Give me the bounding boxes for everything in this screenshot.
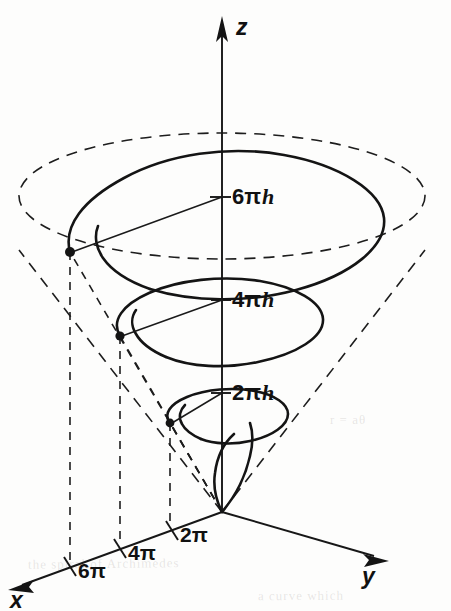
height-label-4pih: 4πh (232, 289, 274, 311)
height-label-2pih-main: 2π (232, 380, 261, 405)
height-label-2pih-italic: h (261, 380, 274, 405)
y-axis-line (222, 512, 374, 556)
height-label-6pih: 6πh (232, 186, 274, 208)
radial-label-2pi: 2π (180, 524, 208, 545)
conical-spiral-figure: the spiral of Archimedes a curve which r… (0, 0, 451, 611)
point-2pih-marker (166, 419, 175, 428)
x-axis-label: x (10, 589, 23, 611)
radial-label-6pi: 6π (78, 560, 106, 581)
radius-line-4pih (122, 300, 222, 336)
figure-canvas (0, 0, 451, 611)
radius-line-2pih (172, 393, 222, 423)
height-label-4pih-main: 4π (232, 287, 261, 312)
spiral-turn-6pi (69, 151, 385, 299)
x-tick-2pi (166, 521, 178, 540)
spiral-link-6pi-to-4pi (96, 226, 150, 289)
point-4pih-marker (115, 331, 124, 340)
y-axis-label: y (362, 565, 375, 588)
radius-line-6pih (72, 197, 222, 252)
spiral-link-4pi-to-2pi (132, 310, 166, 357)
z-axis-label: z (236, 16, 248, 39)
height-label-6pih-main: 6π (232, 184, 261, 209)
height-label-2pih: 2πh (232, 382, 274, 404)
radial-label-4pi: 4π (128, 542, 156, 563)
height-label-6pih-italic: h (261, 184, 274, 209)
point-6pih-marker (65, 247, 75, 257)
spiral-apex-start-outer (222, 423, 252, 512)
height-label-4pih-italic: h (261, 287, 274, 312)
spiral-link-to-origin (180, 405, 201, 439)
